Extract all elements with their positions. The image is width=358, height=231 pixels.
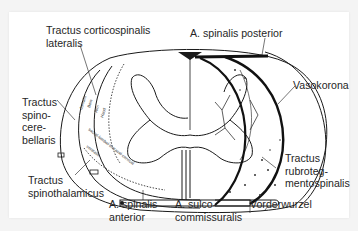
label-line: rubroteg-: [285, 165, 350, 178]
label-a-spinalis-anterior: A. spinalis anterior: [109, 198, 157, 223]
label-vorderwurzel: Vorderwurzel: [250, 198, 312, 211]
label-line: commissuralis: [175, 211, 242, 224]
inner-label-hand: Hand: [99, 107, 107, 119]
label-tractus-corticospinalis-lateralis: Tractus corticospinalis lateralis: [46, 24, 150, 49]
label-line: spino-: [22, 109, 57, 122]
inner-label-bein: Bein: [86, 98, 94, 108]
label-vasokorona: Vasokorona: [293, 79, 349, 92]
label-tractus-rubrotegmentospinalis: Tractus rubroteg- mentospinalis: [285, 152, 350, 190]
label-tractus-spinocerebellaris: Tractus spino- cere- bellaris: [22, 96, 57, 146]
inner-label-ventralis: ventralis: [85, 144, 100, 158]
label-line: A. spinalis: [109, 198, 157, 211]
a-spinalis-posterior-vessel: [195, 56, 268, 57]
inner-label-dorsalis: dorsalis: [78, 95, 87, 110]
label-line: cere-: [22, 121, 57, 134]
label-a-sulcocommissuralis: A. sulco- commissuralis: [175, 198, 242, 223]
label-line: Tractus: [22, 96, 57, 109]
label-line: anterior: [109, 211, 157, 224]
label-a-spinalis-posterior: A. spinalis posterior: [190, 27, 282, 40]
label-line: mentospinalis: [285, 177, 350, 190]
label-line: spinothalamicus: [28, 187, 104, 200]
label-line: Tractus: [285, 152, 350, 165]
label-line: Tractus corticospinalis: [46, 24, 150, 37]
inner-label-arm: Arm: [93, 104, 100, 113]
label-line: Tractus: [28, 174, 104, 187]
label-tractus-spinothalamicus: Tractus spinothalamicus: [28, 174, 104, 199]
grey-matter: [128, 75, 190, 163]
label-line: A. sulco-: [175, 198, 242, 211]
label-line: bellaris: [22, 134, 57, 147]
label-line: lateralis: [46, 37, 150, 50]
